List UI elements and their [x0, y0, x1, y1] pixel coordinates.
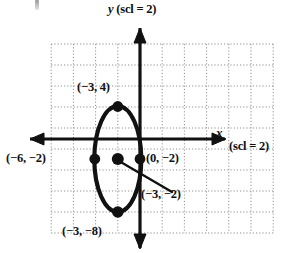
x-axis-arrow-left — [30, 133, 44, 145]
label-top-vertex: (−3, 4) — [77, 81, 110, 94]
point-bottom-vertex — [112, 206, 124, 218]
ellipse-figure: (−3, 4) (−6, −2) (0, −2) (−3, −2) (−3, −… — [0, 0, 301, 253]
label-bottom-vertex: (−3, −8) — [62, 225, 102, 238]
x-axis-label: x — [216, 126, 222, 139]
x-axis-scale-note: (scl = 2) — [229, 140, 269, 153]
y-axis-scale-note: (scl = 2) — [116, 2, 156, 16]
y-axis-arrow-down — [134, 234, 146, 249]
label-center: (−3, −2) — [141, 188, 181, 201]
y-axis-arrow-up — [134, 28, 146, 43]
label-left-covertex: (−6, −2) — [6, 152, 46, 165]
point-left-covertex — [89, 154, 100, 165]
axes — [30, 28, 226, 249]
point-right-covertex — [135, 154, 146, 165]
coordinate-plane-svg — [0, 0, 301, 253]
point-top-vertex — [112, 101, 123, 112]
label-right-covertex: (0, −2) — [146, 152, 179, 165]
point-center — [112, 153, 124, 165]
y-axis-label-group: y (scl = 2) — [108, 3, 156, 16]
scan-artifact — [35, 0, 39, 10]
